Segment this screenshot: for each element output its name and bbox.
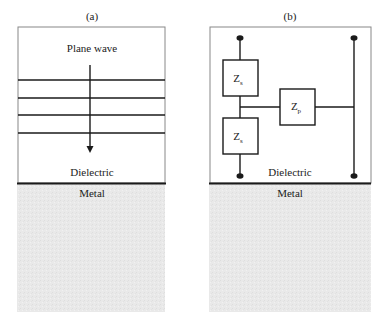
plane-wave-label: Plane wave	[67, 42, 118, 54]
metal-region-b	[209, 184, 371, 312]
dielectric-label-a: Dielectric	[70, 166, 113, 178]
series-impedance-top: Zs	[223, 60, 258, 96]
metal-label-b: Metal	[277, 187, 303, 199]
panel-a-caption: (a)	[86, 10, 99, 23]
metal-region-a	[17, 184, 165, 312]
parallel-impedance: Zp	[280, 89, 315, 125]
terminal-node-icon	[237, 35, 244, 41]
terminal-node-icon	[351, 173, 358, 179]
panel-b: (b) Zs Zs	[209, 10, 371, 312]
panel-a: (a) Plane wave Dielectric Metal	[17, 10, 166, 312]
series-impedance-bottom: Zs	[223, 118, 258, 154]
panel-b-caption: (b)	[284, 10, 297, 23]
terminal-node-icon	[237, 173, 244, 179]
dielectric-label-b: Dielectric	[268, 166, 311, 178]
terminal-node-icon	[351, 35, 358, 41]
metal-label-a: Metal	[79, 187, 105, 199]
diagram-canvas: (a) Plane wave Dielectric Metal (b)	[0, 0, 384, 328]
